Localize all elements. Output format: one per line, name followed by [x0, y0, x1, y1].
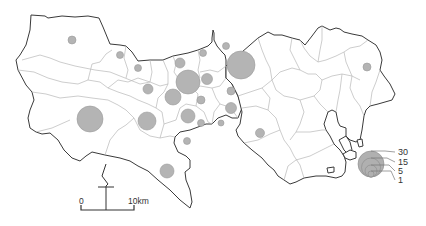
symbol-circle: [117, 52, 124, 59]
symbol-circle: [198, 120, 205, 127]
bay-island-4: [327, 167, 334, 173]
symbol-circle: [200, 50, 207, 57]
symbol-circle: [176, 70, 200, 94]
symbol-circle: [223, 43, 230, 50]
symbol-circle: [175, 58, 185, 68]
symbol-circle: [218, 120, 224, 126]
scale-end-label: 10km: [128, 196, 149, 206]
symbol-circle: [160, 164, 174, 178]
symbol-circle: [363, 63, 371, 71]
symbol-circle: [138, 112, 156, 130]
symbol-circle: [227, 51, 255, 79]
symbol-legend: 301551: [358, 147, 408, 185]
symbol-circle: [202, 74, 213, 85]
legend-label-30: 30: [398, 147, 408, 157]
symbol-circle: [68, 36, 76, 44]
scale-bar: 0 10km: [79, 196, 149, 210]
scale-start-label: 0: [79, 196, 84, 206]
symbol-circle: [197, 96, 205, 104]
symbol-circle: [135, 65, 142, 72]
symbol-circle: [256, 129, 265, 138]
symbol-circle: [227, 87, 235, 95]
map-outline-west: [16, 15, 242, 208]
legend-label-1: 1: [398, 175, 403, 185]
north-arrow: [98, 164, 114, 210]
symbol-circle: [165, 89, 181, 105]
legend-circle-1: [368, 171, 374, 177]
bay-island-3: [357, 139, 363, 147]
symbol-circle: [184, 138, 191, 145]
symbol-circle: [77, 106, 103, 132]
tokyo-symbol-map: 301551 0 10km: [0, 0, 426, 226]
symbol-circle: [143, 84, 153, 94]
symbol-circle: [181, 109, 195, 123]
symbol-circle: [226, 103, 237, 114]
